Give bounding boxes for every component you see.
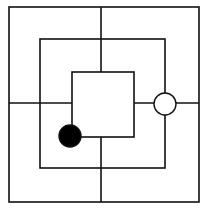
white-piece[interactable] <box>154 93 176 115</box>
game-pieces <box>59 93 176 147</box>
inner-square <box>72 72 134 137</box>
morris-board <box>0 0 211 210</box>
black-piece[interactable] <box>59 125 81 147</box>
